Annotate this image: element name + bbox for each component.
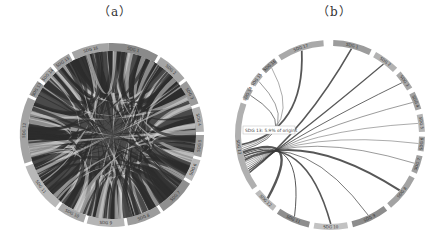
segment-label: SDG 10 (323, 224, 339, 229)
segment-label: SDG 9 (363, 213, 377, 223)
tooltip-text: SDG 13: 5.9% of origins (245, 128, 298, 133)
segment-sdg-1[interactable]: SDG 1 (333, 40, 372, 55)
segment-label: SDG 11 (285, 214, 301, 225)
segment-sdg-10[interactable]: SDG 10 (314, 222, 349, 230)
segment-label: SDG 16 (262, 58, 277, 72)
chord-ribbon (242, 68, 283, 147)
segment-sdg-8[interactable]: SDG 8 (387, 175, 414, 207)
segment-sdg-4[interactable]: SDG 4 (409, 92, 421, 111)
chord-diagrams: SDG 1SDG 2SDG 3SDG 4SDG 5SDG 6SDG 7SDG 8… (0, 0, 446, 240)
segment-sdg-16[interactable]: SDG 16 (262, 58, 278, 73)
segment-sdg-3[interactable]: SDG 3 (396, 71, 412, 90)
ribbons-b (242, 49, 419, 224)
segment-label: SDG 13 (236, 139, 243, 155)
segment-sdg-11[interactable]: SDG 11 (277, 209, 310, 228)
segment-sdg-15[interactable]: SDG 15 (250, 72, 263, 87)
segment-sdg-9[interactable]: SDG 9 (352, 206, 388, 227)
segment-sdg-6[interactable]: SDG 6 (418, 137, 425, 152)
segment-sdg-12[interactable]: SDG 12 (255, 190, 276, 211)
segment-label: SDG 12 (21, 122, 27, 138)
tooltip: SDG 13: 5.9% of origins (243, 126, 298, 134)
segment-sdg-14[interactable]: SDG 14 (242, 86, 253, 102)
segment-label: SDG 9 (99, 220, 112, 226)
chord-diagram-b: SDG 1SDG 2SDG 3SDG 4SDG 5SDG 6SDG 7SDG 8… (235, 40, 425, 230)
segments-b: SDG 1SDG 2SDG 3SDG 4SDG 5SDG 6SDG 7SDG 8… (235, 40, 425, 230)
segment-sdg-7[interactable]: SDG 7 (411, 155, 422, 174)
segment-sdg-5[interactable]: SDG 5 (417, 114, 425, 132)
ribbons-a (28, 51, 196, 219)
segment-label: SDG 12 (259, 193, 274, 207)
chord-diagram-a: SDG 1SDG 2SDG 3SDG 4SDG 5SDG 6SDG 7SDG 8… (20, 43, 204, 227)
